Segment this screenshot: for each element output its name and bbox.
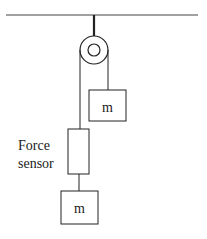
sensor-label-line1: Force [18,138,50,153]
pulley [80,36,108,64]
pulley-diagram: m Force sensor m [0,0,207,239]
mass-label-right: m [102,100,113,115]
mass-box-bottom: m [61,191,98,224]
mass-box-right: m [89,90,126,121]
sensor-label-line2: sensor [18,156,54,171]
force-sensor [68,129,89,174]
mass-label-bottom: m [74,201,85,216]
